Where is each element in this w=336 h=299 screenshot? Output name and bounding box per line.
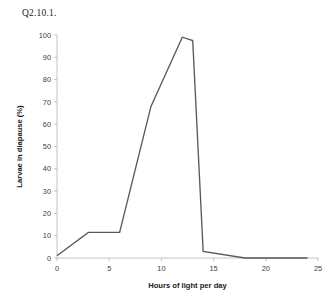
y-tick-label: 70 xyxy=(43,98,51,107)
y-tick-label: 60 xyxy=(43,120,51,129)
page-title: Q2.10.1. xyxy=(22,8,57,18)
y-tick-label: 80 xyxy=(43,75,51,84)
line-chart: 0102030405060708090100 0510152025 Hours … xyxy=(0,22,336,299)
x-tick-label: 5 xyxy=(107,264,111,273)
chart-figure: 0102030405060708090100 0510152025 Hours … xyxy=(0,22,336,299)
y-tick-label: 30 xyxy=(43,187,51,196)
y-tick-label: 20 xyxy=(43,209,51,218)
y-tick-label: 50 xyxy=(43,142,51,151)
x-axis-title: Hours of light per day xyxy=(148,281,227,290)
data-series-line xyxy=(57,37,308,258)
x-tick-label: 15 xyxy=(209,264,217,273)
y-tick-label: 10 xyxy=(43,231,51,240)
y-axis-tick-marks xyxy=(54,35,57,258)
x-tick-label: 0 xyxy=(55,264,59,273)
y-tick-label: 100 xyxy=(39,31,51,40)
x-tick-label: 25 xyxy=(314,264,322,273)
y-tick-label: 90 xyxy=(43,53,51,62)
x-axis-tick-labels: 0510152025 xyxy=(55,264,322,273)
x-tick-label: 20 xyxy=(262,264,270,273)
y-tick-label: 40 xyxy=(43,164,51,173)
x-tick-label: 10 xyxy=(157,264,165,273)
y-axis-title: Larvae in diapause (%) xyxy=(15,105,24,188)
y-axis-tick-labels: 0102030405060708090100 xyxy=(39,31,51,263)
y-tick-label: 0 xyxy=(47,254,51,263)
